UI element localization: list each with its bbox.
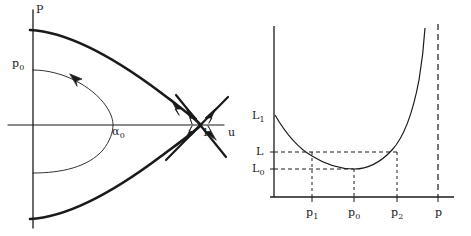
L1-label: L1 [252, 110, 265, 124]
p1-label: p1 [306, 207, 319, 221]
p0-label: p0 [12, 58, 25, 72]
arrow-saddle-out-lower-left [184, 126, 195, 142]
potential-curve-svg [236, 0, 471, 236]
arrow-saddle-out-upper-right [205, 108, 216, 123]
L-label: L [256, 146, 264, 157]
alpha0-label: α0 [112, 126, 125, 140]
l-of-p-curve [275, 28, 425, 169]
p2-label: p2 [391, 207, 404, 221]
phase-portrait-svg [0, 0, 236, 236]
L0-label: L0 [252, 163, 265, 177]
outer-separatrix-upper [30, 30, 201, 125]
arrow-inner-orbit [70, 74, 82, 86]
p-axis-label: P [36, 4, 44, 15]
u-axis-label: u [228, 127, 235, 138]
p-label: p [435, 207, 442, 218]
potential-curve-panel: L1 L L0 p1 p0 p2 p [236, 0, 471, 236]
figure-root: P p0 α0 1 u [0, 0, 471, 236]
inner-closed-orbit [33, 70, 113, 173]
p0-label-right: p0 [348, 207, 361, 221]
phase-portrait-panel: P p0 α0 1 u [0, 0, 236, 236]
saddle-point-1-label: 1 [202, 127, 209, 138]
